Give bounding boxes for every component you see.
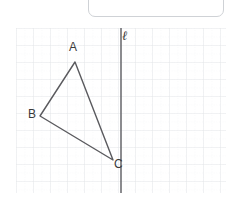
figure-canvas: A B C ℓ bbox=[0, 0, 226, 206]
vertex-label-b: B bbox=[28, 108, 36, 120]
vertex-label-c: C bbox=[114, 158, 123, 170]
line-label-ell: ℓ bbox=[122, 29, 127, 42]
coordinate-grid-panel: A B C ℓ bbox=[16, 28, 226, 193]
answer-input-box[interactable] bbox=[88, 0, 224, 17]
triangle-abc bbox=[40, 62, 113, 160]
vertex-label-a: A bbox=[69, 41, 77, 53]
